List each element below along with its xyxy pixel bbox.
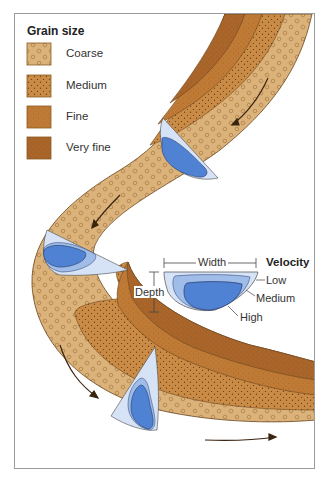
legend-swatch-fine — [27, 106, 51, 128]
meander-diagram: Grain size Coarse Medium Fine Very fine … — [0, 0, 323, 483]
legend-swatch-very-fine — [27, 137, 51, 159]
legend-title: Grain size — [27, 24, 84, 38]
legend-label-fine: Fine — [66, 110, 88, 122]
depth-label: Depth — [134, 286, 165, 298]
velocity-low-label: Low — [266, 274, 286, 286]
velocity-medium-label: Medium — [256, 292, 295, 304]
legend-label-coarse: Coarse — [66, 47, 103, 59]
river-meander-illustration — [0, 0, 323, 483]
legend-swatch-coarse — [27, 43, 51, 65]
legend-label-medium: Medium — [66, 79, 107, 91]
legend-label-very-fine: Very fine — [66, 141, 111, 153]
legend-swatch-medium — [27, 75, 51, 97]
velocity-high-label: High — [240, 311, 263, 323]
velocity-title: Velocity — [266, 256, 309, 268]
width-label: Width — [196, 256, 228, 268]
